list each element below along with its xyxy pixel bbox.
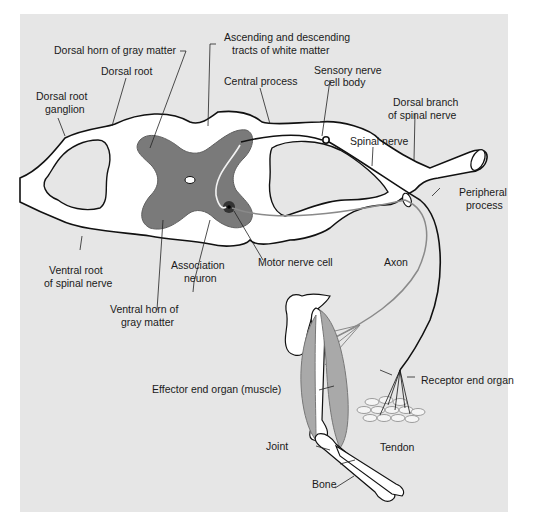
label-motor-cell: Motor nerve cell [258,256,333,269]
label-peripheral-line2: process [466,199,503,212]
label-ventral-horn-line1: Ventral horn of [110,303,178,316]
label-tracts-line1: Ascending and descending [224,31,350,44]
label-joint: Joint [266,440,288,453]
label-dorsal-root: Dorsal root [101,65,152,78]
label-association-line2: neuron [184,272,217,285]
label-dorsal-branch-line2: of spinal nerve [388,109,456,122]
label-peripheral-line1: Peripheral [459,186,507,199]
label-ventral-root-line1: Ventral root [49,264,103,277]
label-bone: Bone [312,478,337,491]
label-drg-line1: Dorsal root [36,90,87,103]
receptor-end-organ-cells [357,397,425,423]
label-dorsal-branch-line1: Dorsal branch [393,96,458,109]
label-receptor: Receptor end organ [421,374,514,387]
label-drg-line2: ganglion [45,103,85,116]
label-ventral-horn-line2: gray matter [121,316,174,329]
label-ventral-root-line2: of spinal nerve [44,277,112,290]
label-central-process: Central process [224,75,298,88]
label-association-line1: Association [171,259,225,272]
sensory-cell-body [323,137,329,143]
central-canal [185,177,195,184]
label-sensory-cell-line2: cell body [324,76,365,89]
label-spinal-nerve: Spinal nerve [350,135,408,148]
label-axon: Axon [384,256,408,269]
label-dorsal-horn: Dorsal horn of gray matter [54,44,176,57]
label-tendon: Tendon [380,441,414,454]
label-tracts-line2: tracts of white matter [232,44,329,57]
label-effector: Effector end organ (muscle) [152,383,281,396]
